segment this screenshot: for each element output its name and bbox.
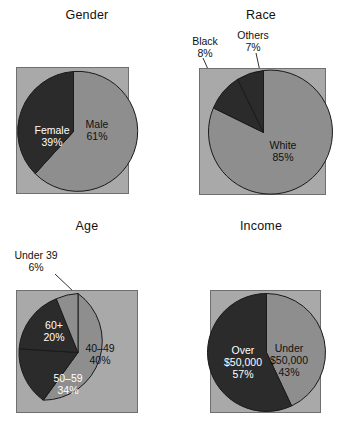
pie-label-female: Female 39%	[34, 124, 69, 148]
pie-label-40-49-pct: 40%	[85, 354, 114, 366]
pie-label-under-50000-pct: 43%	[270, 366, 308, 378]
pie-label-over-50000-line2: $50,000	[224, 356, 262, 368]
panel-title-income: Income	[174, 219, 348, 233]
pie-callout-others: Others 7%	[237, 29, 269, 53]
pie-label-male-pct: 61%	[86, 130, 109, 142]
pie-label-under-50000-line1: Under	[270, 342, 308, 354]
pie-label-over-50000-line1: Over	[224, 344, 262, 356]
pie-label-under-50000-line2: $50,000	[270, 354, 308, 366]
pie-callout-under-39: Under 39 6%	[14, 249, 57, 273]
panel-gender: Gender Male 61% Female 39%	[0, 0, 174, 213]
pie-label-male-name: Male	[86, 118, 109, 130]
pie-label-60-plus: 60+ 20%	[43, 319, 64, 343]
pie-label-female-pct: 39%	[34, 136, 69, 148]
pie-race	[200, 69, 327, 196]
pie-callout-under-39-name: Under 39	[14, 249, 57, 261]
panel-title-gender: Gender	[0, 8, 174, 22]
plot-area-gender: Male 61% Female 39%	[16, 67, 129, 194]
pie-label-50-59: 50–59 34%	[53, 372, 82, 396]
pie-label-under-50000: Under $50,000 43%	[270, 342, 308, 378]
panel-title-age: Age	[0, 219, 174, 233]
panel-age: Age Under 39 6% 40–49 40%	[0, 213, 174, 427]
pie-label-40-49-name: 40–49	[85, 342, 114, 354]
pie-label-white-pct: 85%	[270, 151, 297, 163]
plot-area-age: 40–49 40% 50–59 34% 60+ 20%	[16, 290, 138, 413]
plot-area-income: Under $50,000 43% Over $50,000 57%	[210, 290, 321, 413]
pie-callout-others-name: Others	[237, 29, 269, 41]
pie-label-40-49: 40–49 40%	[85, 342, 114, 366]
pie-label-male: Male 61%	[86, 118, 109, 142]
pie-label-60-plus-name: 60+	[43, 319, 64, 331]
panel-race: Race Black 8% Others 7% White	[174, 0, 348, 213]
pie-label-white: White 85%	[270, 139, 297, 163]
pie-callout-black-pct: 8%	[192, 47, 218, 59]
pie-label-white-name: White	[270, 139, 297, 151]
pie-callout-others-pct: 7%	[237, 41, 269, 53]
pie-label-over-50000-pct: 57%	[224, 368, 262, 380]
pie-callout-black: Black 8%	[192, 35, 218, 59]
pie-label-female-name: Female	[34, 124, 69, 136]
pie-callout-under-39-pct: 6%	[14, 261, 57, 273]
pie-label-over-50000: Over $50,000 57%	[224, 344, 262, 380]
panel-income: Income Under $50,000 43% Over $50,000 57…	[174, 213, 348, 427]
pie-label-60-plus-pct: 20%	[43, 331, 64, 343]
pie-label-50-59-name: 50–59	[53, 372, 82, 384]
panel-title-race: Race	[174, 8, 348, 22]
plot-area-race: White 85%	[199, 68, 326, 195]
pie-callout-black-name: Black	[192, 35, 218, 47]
pie-label-50-59-pct: 34%	[53, 384, 82, 396]
pie-chart-figure: Gender Male 61% Female 39% Race Black 8%	[0, 0, 348, 427]
